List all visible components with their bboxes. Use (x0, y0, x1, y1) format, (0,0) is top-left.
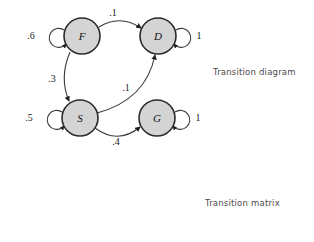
transition-diagram: F D S G .6 .1 1 .3 .1 .5 .4 1 (0, 0, 314, 160)
edge-label-F-D: .1 (109, 7, 117, 18)
edge-S-G (95, 127, 140, 136)
edge-label-G-G: 1 (196, 112, 201, 123)
node-S-label: S (77, 112, 83, 124)
edge-label-layer: .6 .1 1 .3 .1 .5 .4 1 (25, 7, 201, 147)
edge-F-D (99, 21, 141, 28)
edge-label-F-S: .3 (48, 73, 56, 84)
node-F-label: F (78, 30, 86, 42)
edge-label-S-G: .4 (112, 136, 120, 147)
edge-label-S-S: .5 (25, 112, 33, 123)
node-layer: F D S G (62, 18, 176, 136)
transition-diagram-caption: Transition diagram (213, 67, 296, 77)
transition-matrix-caption: Transition matrix (205, 198, 280, 208)
node-G-label: G (153, 112, 161, 124)
edge-label-S-D: .1 (122, 82, 130, 93)
edge-label-F-F: .6 (27, 30, 35, 41)
node-D-label: D (153, 30, 162, 42)
edge-F-S (64, 52, 70, 101)
figure-container: F D S G .6 .1 1 .3 .1 .5 .4 1 Transition… (0, 0, 314, 242)
edge-label-D-D: 1 (197, 30, 202, 41)
